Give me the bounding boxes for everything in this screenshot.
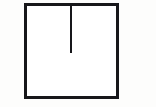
figure-canvas: Slotted square outline xyxy=(0,0,156,107)
slotted-square-drawing xyxy=(0,0,156,107)
